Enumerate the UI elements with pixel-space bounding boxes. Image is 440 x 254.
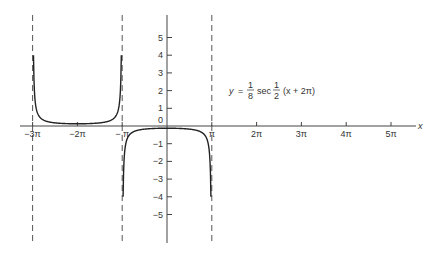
y-tick-label: −3 (153, 174, 163, 184)
x-tick-label: −2π (69, 129, 85, 139)
y-tick-label: −1 (153, 139, 163, 149)
y-tick-label: −4 (153, 192, 163, 202)
svg-text:2: 2 (274, 91, 279, 101)
curve-upper-branch (33, 55, 121, 124)
svg-text:sec: sec (257, 86, 272, 96)
x-ticks: −3π−2π− ππ2π3π4π5π (24, 122, 396, 139)
x-axis-label: x (417, 121, 423, 131)
x-tick-label: −3π (24, 129, 40, 139)
svg-text:1: 1 (248, 80, 253, 90)
svg-text:=: = (238, 86, 243, 96)
y-tick-label: −2 (153, 156, 163, 166)
y-tick-label: 3 (158, 68, 163, 78)
svg-text:1: 1 (274, 80, 279, 90)
sec-graph: x −3π−2π− ππ2π3π4π5π 543210−1−2−3−4−5 y … (0, 0, 440, 254)
x-tick-label: 5π (385, 129, 396, 139)
x-tick-label: π (209, 129, 215, 139)
function-label: y = 1 8 sec 1 2 (x + 2π) (228, 80, 315, 101)
y-tick-label: 1 (158, 103, 163, 113)
y-tick-label: −5 (153, 210, 163, 220)
y-tick-label: 0 (158, 115, 163, 125)
svg-text:(x + 2π): (x + 2π) (283, 86, 315, 96)
x-tick-label: 3π (296, 129, 307, 139)
x-tick-label: 2π (251, 129, 262, 139)
y-tick-label: 4 (158, 50, 163, 60)
x-tick-label: 4π (341, 129, 352, 139)
y-tick-label: 2 (158, 86, 163, 96)
y-tick-label: 5 (158, 33, 163, 43)
svg-text:8: 8 (248, 91, 253, 101)
svg-text:y: y (228, 86, 234, 96)
